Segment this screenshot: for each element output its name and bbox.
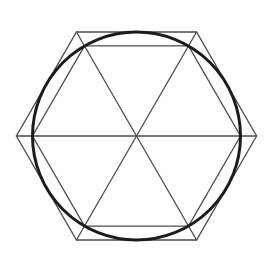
geometry-diagram (0, 0, 273, 256)
diagram-page (0, 0, 273, 256)
diagonals-group (16, 32, 256, 240)
